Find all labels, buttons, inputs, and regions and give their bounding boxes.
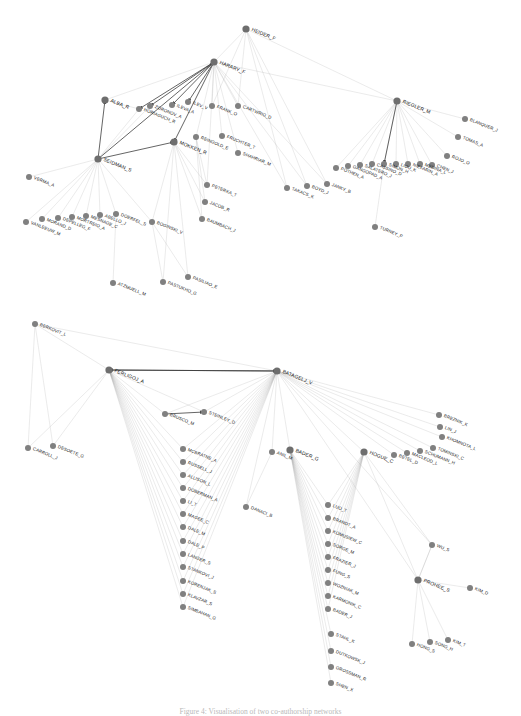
graph-node[interactable] [286,446,293,453]
graph-node[interactable] [199,216,205,222]
graph-node[interactable] [185,99,191,105]
graph-node[interactable] [372,224,378,230]
graph-node[interactable] [160,279,166,285]
graph-node-label: LI_T [187,499,198,507]
graph-node[interactable] [193,134,199,140]
graph-node[interactable] [32,321,38,327]
graph-node[interactable] [325,528,331,534]
graph-node[interactable] [325,580,331,586]
graph-node-label: SHEN_X [335,681,354,692]
graph-node[interactable] [273,367,280,374]
graph-edge [35,324,109,370]
graph-node[interactable] [180,538,186,544]
graph-edge [277,371,394,455]
graph-node[interactable] [180,551,186,557]
graph-node[interactable] [170,138,177,145]
graph-node[interactable] [437,424,443,430]
graph-node[interactable] [180,446,186,452]
graph-node[interactable] [50,443,56,449]
graph-node[interactable] [467,585,473,591]
graph-node[interactable] [105,366,112,373]
graph-node-label: SIMBAHAN_G [187,605,217,621]
graph-node[interactable] [110,280,116,286]
graph-node[interactable] [202,199,208,205]
graph-node[interactable] [325,606,331,612]
graph-node[interactable] [242,25,249,32]
graph-node[interactable] [180,578,186,584]
graph-node[interactable] [162,411,168,417]
graph-node[interactable] [455,134,461,140]
graph-node[interactable] [444,153,450,159]
graph-node[interactable] [328,648,334,654]
graph-node[interactable] [324,181,330,187]
graph-node[interactable] [26,174,32,180]
graph-node[interactable] [185,274,191,280]
graph-node[interactable] [328,664,334,670]
graph-node[interactable] [269,449,275,455]
graph-node[interactable] [209,103,215,109]
graph-node[interactable] [462,116,468,122]
graph-node[interactable] [180,591,186,597]
graph-edge [165,371,277,414]
graph-node[interactable] [243,504,249,510]
graph-node[interactable] [39,216,45,222]
graph-node-label: PROHEE_S [423,577,452,593]
graph-node[interactable] [439,434,445,440]
graph-node[interactable] [325,502,331,508]
graph-edge [277,371,433,448]
graph-node[interactable] [149,219,155,225]
graph-node[interactable] [325,593,331,599]
graph-node-label: STANKOVI_J [187,565,214,580]
graph-node-label: MAGEE_C [187,512,209,525]
graph-node[interactable] [180,472,186,478]
graph-node[interactable] [427,639,433,645]
graph-node[interactable] [325,567,331,573]
graph-node[interactable] [325,541,331,547]
graph-node[interactable] [325,515,331,521]
graph-node[interactable] [180,498,186,504]
graph-node[interactable] [136,106,142,112]
graph-node[interactable] [23,219,29,225]
graph-node[interactable] [393,97,400,104]
graph-node[interactable] [360,448,367,455]
graph-node[interactable] [325,554,331,560]
graph-node[interactable] [235,103,241,109]
graph-node[interactable] [101,96,108,103]
graph-node[interactable] [180,524,186,530]
graph-node[interactable] [328,680,334,686]
edges-layer [26,29,470,683]
graph-edge [290,450,331,683]
graph-node-label: TOMAS_A [462,135,484,148]
graph-node[interactable] [445,637,451,643]
graph-node[interactable] [436,412,442,418]
graph-node[interactable] [409,641,415,647]
graph-node[interactable] [180,564,186,570]
graph-edge [336,101,397,168]
graph-node[interactable] [333,165,339,171]
graph-node[interactable] [210,58,217,65]
graph-node[interactable] [94,155,101,162]
graph-edge [109,370,183,541]
graph-node[interactable] [235,150,241,156]
graph-edge [109,370,183,554]
graph-node-label: KIM_T [452,638,467,648]
graph-node[interactable] [169,102,175,108]
graph-node[interactable] [328,631,334,637]
graph-node[interactable] [180,511,186,517]
graph-node[interactable] [25,445,31,451]
graph-node[interactable] [180,485,186,491]
graph-edge [109,370,183,475]
graph-edge [290,450,328,570]
graph-node[interactable] [284,185,290,191]
graph-node[interactable] [204,182,210,188]
graph-node[interactable] [429,542,435,548]
graph-edge [328,452,364,505]
graph-node[interactable] [201,409,207,415]
graph-edge [290,450,331,667]
graph-node[interactable] [414,576,421,583]
graph-node[interactable] [304,183,310,189]
graph-node[interactable] [219,133,225,139]
graph-node[interactable] [180,459,186,465]
graph-edge [152,222,163,282]
graph-node[interactable] [180,604,186,610]
